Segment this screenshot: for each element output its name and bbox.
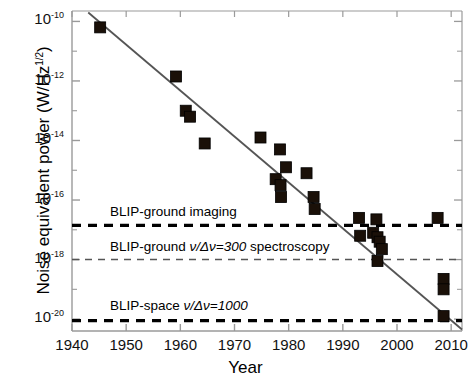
data-point bbox=[301, 168, 312, 179]
data-point bbox=[438, 284, 449, 295]
x-tick-label: 1970 bbox=[209, 336, 261, 353]
annotation-blip-ground-spectroscopy: BLIP-ground ν/Δν=300 spectroscopy bbox=[110, 239, 330, 254]
annotation-text-pre: BLIP-space bbox=[110, 298, 184, 313]
x-tick-label: 1980 bbox=[263, 336, 315, 353]
y-axis-title-superscript: 1/2 bbox=[34, 52, 45, 66]
data-point bbox=[275, 144, 286, 155]
x-tick-label: 1960 bbox=[154, 336, 206, 353]
data-point bbox=[354, 212, 365, 223]
data-point bbox=[280, 162, 291, 173]
x-tick-label: 2000 bbox=[371, 336, 423, 353]
data-point bbox=[185, 111, 196, 122]
data-point bbox=[276, 192, 287, 203]
y-axis-title: Noise equivalent power (W/Hz1/2) bbox=[34, 10, 55, 330]
data-point bbox=[438, 273, 449, 284]
trendline-group bbox=[88, 12, 462, 329]
annotation-blip-space: BLIP-space ν/Δν=1000 bbox=[110, 298, 248, 313]
data-point bbox=[355, 230, 366, 241]
x-tick-label: 2010 bbox=[425, 336, 469, 353]
annotation-text-post: spectroscopy bbox=[246, 239, 329, 254]
data-point bbox=[371, 214, 382, 225]
y-tick-label: 10-16 bbox=[16, 189, 64, 206]
scatter-plot-canvas bbox=[0, 0, 469, 382]
annotation-blip-ground-imaging: BLIP-ground imaging bbox=[110, 204, 237, 219]
data-point bbox=[199, 138, 210, 149]
axes-group bbox=[72, 11, 462, 331]
y-tick-label: 10-14 bbox=[16, 129, 64, 146]
y-tick-label: 10-12 bbox=[16, 70, 64, 87]
data-point bbox=[438, 311, 449, 322]
annotation-text: BLIP-ground imaging bbox=[110, 204, 237, 219]
chart-figure: Noise equivalent power (W/Hz1/2) Year 19… bbox=[0, 0, 469, 382]
y-axis-title-tail: ) bbox=[34, 46, 53, 52]
y-tick-label: 10-10 bbox=[16, 10, 64, 27]
x-tick-label: 1990 bbox=[317, 336, 369, 353]
x-axis-title: Year bbox=[0, 358, 469, 378]
y-tick-label: 10-20 bbox=[16, 308, 64, 325]
x-axis-title-text: Year bbox=[228, 358, 262, 377]
data-point bbox=[255, 132, 266, 143]
data-points-group bbox=[95, 22, 449, 322]
x-tick-label: 1940 bbox=[46, 336, 98, 353]
data-point bbox=[275, 180, 286, 191]
data-point bbox=[308, 192, 319, 203]
x-tick-label: 1950 bbox=[100, 336, 152, 353]
data-point bbox=[95, 22, 106, 33]
data-point bbox=[432, 212, 443, 223]
y-tick-label: 10-18 bbox=[16, 249, 64, 266]
annotation-text-pre: BLIP-ground bbox=[110, 239, 190, 254]
data-point bbox=[376, 244, 387, 255]
annotation-text-nu: ν/Δν=300 bbox=[189, 239, 246, 254]
annotation-text-nu: ν/Δν=1000 bbox=[183, 298, 247, 313]
data-point bbox=[309, 203, 320, 214]
data-point bbox=[171, 71, 182, 82]
data-point bbox=[372, 256, 383, 267]
